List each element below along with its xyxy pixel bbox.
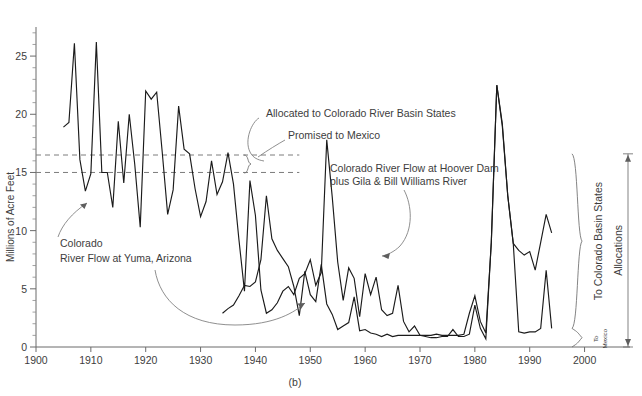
- x-tick-label-1900: 1900: [24, 354, 48, 366]
- brace-label-allocations: Allocations: [612, 225, 624, 276]
- annotation-hoover-line1: Colorado River Flow at Hoover Dam: [330, 162, 499, 174]
- hoover-leader: [382, 190, 410, 256]
- figure-container: 0510152025190019101920193019401950196019…: [0, 0, 642, 396]
- allocations-arrowhead-bottom: [625, 339, 631, 346]
- x-tick-label-1950: 1950: [299, 354, 323, 366]
- dashed-band-brace: [244, 155, 251, 173]
- x-tick-label-1940: 1940: [244, 354, 268, 366]
- x-tick-label-1980: 1980: [463, 354, 487, 366]
- annotation-yuma-line1: Colorado: [60, 237, 103, 249]
- annotation-yuma-line2: River Flow at Yuma, Arizona: [60, 252, 192, 264]
- brace-label-basin-states: To Colorado Basin States: [592, 182, 604, 300]
- y-axis-title: Millions of Acre Feet: [5, 172, 16, 262]
- x-tick-label-1910: 1910: [79, 354, 103, 366]
- x-tick-label-1970: 1970: [408, 354, 432, 366]
- annotation-hoover-line2: plus Gila & Bill Williams River: [330, 175, 468, 187]
- chart-svg: 0510152025190019101920193019401950196019…: [0, 0, 642, 396]
- brace-label-mexico-line1: To: [592, 335, 599, 342]
- promised-leader: [258, 140, 285, 157]
- series-line-1: [223, 85, 552, 336]
- figure-caption: (b): [289, 376, 302, 388]
- x-tick-label-1920: 1920: [134, 354, 158, 366]
- yuma-arrowhead-upper: [80, 203, 87, 209]
- y-tick-label-10: 10: [15, 225, 27, 237]
- annotation-allocated: Allocated to Colorado River Basin States: [266, 107, 456, 119]
- x-tick-label-1990: 1990: [518, 354, 542, 366]
- y-tick-label-0: 0: [21, 341, 27, 353]
- yuma-leader-lower: [155, 270, 305, 325]
- x-tick-label-1960: 1960: [353, 354, 377, 366]
- hoover-arrowhead: [382, 253, 390, 259]
- y-tick-label-5: 5: [21, 283, 27, 295]
- y-tick-label-25: 25: [15, 50, 27, 62]
- series-line-0: [63, 42, 551, 339]
- brace-basin-states: [572, 154, 582, 329]
- x-tick-label-2000: 2000: [573, 354, 597, 366]
- brace-label-mexico-line2: Mexico: [601, 328, 608, 348]
- brace-mexico: [572, 328, 582, 347]
- y-tick-label-20: 20: [15, 108, 27, 120]
- x-tick-label-1930: 1930: [189, 354, 213, 366]
- annotation-promised: Promised to Mexico: [288, 129, 380, 141]
- yuma-leader-upper: [58, 203, 87, 237]
- allocations-arrowhead-top: [625, 155, 631, 162]
- y-tick-label-15: 15: [15, 166, 27, 178]
